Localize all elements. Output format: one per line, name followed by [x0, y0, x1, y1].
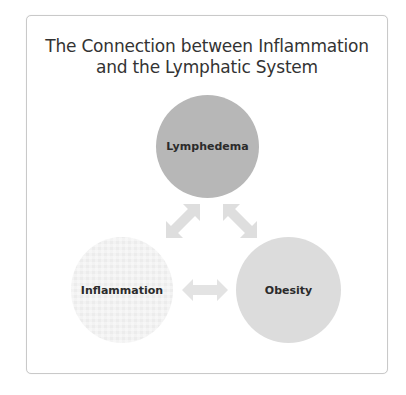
node-obesity: Obesity: [236, 237, 341, 343]
double-arrow-icon-right: [215, 196, 266, 247]
node-inflammation: Inflammation: [71, 237, 173, 343]
node-label-inflammation: Inflammation: [81, 284, 163, 297]
node-label-obesity: Obesity: [265, 284, 312, 297]
node-lymphedema: Lymphedema: [156, 95, 259, 198]
double-arrow-icon-left: [158, 196, 209, 247]
double-arrow-icon-horizontal: [182, 279, 228, 301]
node-label-lymphedema: Lymphedema: [166, 140, 248, 153]
